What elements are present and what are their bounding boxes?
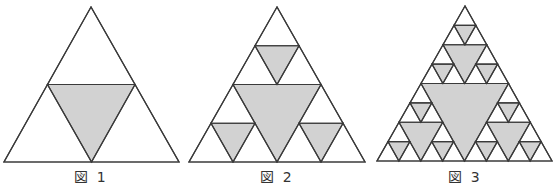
figure-2-label: 図 2 — [247, 166, 307, 183]
figure-3-label: 図 3 — [435, 166, 495, 183]
sierpinski-figures — [0, 0, 556, 183]
figure-1-label: 図 1 — [61, 166, 121, 183]
